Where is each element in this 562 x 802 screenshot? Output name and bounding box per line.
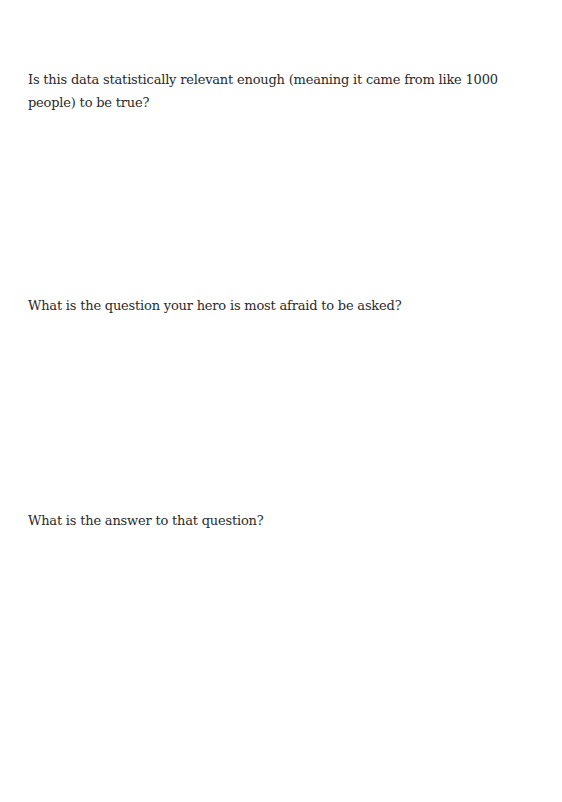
question-hero-fear: What is the question your hero is most a… [28, 294, 548, 317]
question-statistical-relevance: Is this data statistically relevant enou… [28, 68, 548, 114]
question-answer: What is the answer to that question? [28, 509, 548, 532]
